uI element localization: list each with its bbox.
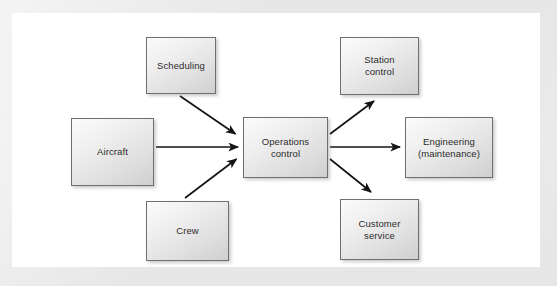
node-engineering-maintenance-label: Engineering (maintenance) [416, 136, 482, 160]
node-customer-service-label: Customer service [357, 218, 403, 242]
node-station-control-label: Station control [362, 54, 396, 78]
node-crew: Crew [146, 201, 229, 261]
node-engineering-maintenance: Engineering (maintenance) [405, 117, 493, 178]
node-aircraft: Aircraft [71, 118, 154, 186]
node-scheduling: Scheduling [146, 37, 216, 94]
node-customer-service: Customer service [340, 199, 419, 260]
node-scheduling-label: Scheduling [155, 60, 207, 72]
node-crew-label: Crew [174, 225, 201, 237]
figure-caption [14, 271, 334, 283]
node-station-control: Station control [340, 37, 419, 95]
node-aircraft-label: Aircraft [95, 146, 130, 158]
node-operations-control: Operations control [243, 117, 328, 178]
node-operations-control-label: Operations control [260, 136, 311, 160]
